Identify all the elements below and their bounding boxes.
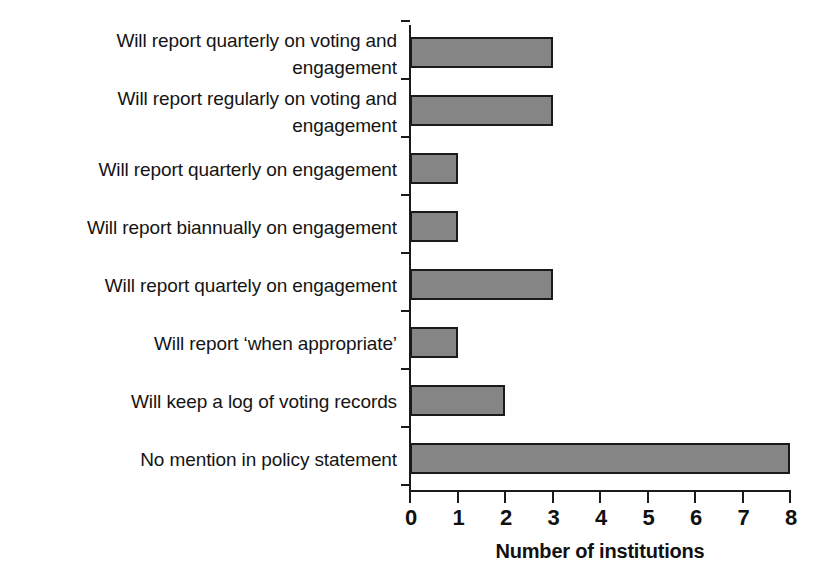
x-axis-tick-label: 5 bbox=[629, 505, 669, 531]
x-axis-tick-label: 3 bbox=[534, 505, 574, 531]
category-label: No mention in policy statement bbox=[0, 446, 405, 473]
x-axis-tick bbox=[647, 492, 649, 503]
bar bbox=[410, 153, 458, 184]
category-label: Will keep a log of voting records bbox=[0, 388, 405, 415]
y-axis-tick bbox=[401, 20, 410, 22]
plot-area bbox=[410, 25, 790, 490]
x-axis-tick bbox=[789, 492, 791, 503]
category-label: Will report biannually on engagement bbox=[0, 214, 405, 241]
category-label: Will report quarterly on voting and enga… bbox=[0, 27, 405, 81]
y-axis-tick bbox=[401, 484, 410, 486]
x-axis-tick-label: 4 bbox=[581, 505, 621, 531]
x-axis-tick-label: 8 bbox=[771, 505, 811, 531]
bar bbox=[410, 95, 553, 126]
x-axis-tick-label: 1 bbox=[439, 505, 479, 531]
y-axis-tick bbox=[401, 252, 410, 254]
category-label: Will report quarterly on engagement bbox=[0, 156, 405, 183]
bar bbox=[410, 37, 553, 68]
category-label: Will report regularly on voting and enga… bbox=[0, 85, 405, 139]
category-label: Will report quartely on engagement bbox=[0, 272, 405, 299]
x-axis-tick bbox=[457, 492, 459, 503]
x-axis-tick bbox=[504, 492, 506, 503]
x-axis-tick bbox=[409, 492, 411, 503]
x-axis-tick bbox=[694, 492, 696, 503]
x-axis-title: Number of institutions bbox=[410, 540, 790, 563]
x-axis-tick bbox=[599, 492, 601, 503]
x-axis-tick-label: 2 bbox=[486, 505, 526, 531]
x-axis-tick bbox=[742, 492, 744, 503]
y-axis-tick bbox=[401, 136, 410, 138]
bar bbox=[410, 269, 553, 300]
x-axis-tick-label: 0 bbox=[391, 505, 431, 531]
category-label: Will report ‘when appropriate’ bbox=[0, 330, 405, 357]
y-axis-tick bbox=[401, 194, 410, 196]
x-axis-tick-label: 7 bbox=[724, 505, 764, 531]
y-axis-tick bbox=[401, 426, 410, 428]
x-axis-tick-label: 6 bbox=[676, 505, 716, 531]
y-axis-tick bbox=[401, 310, 410, 312]
x-axis-tick bbox=[552, 492, 554, 503]
y-axis-tick bbox=[401, 78, 410, 80]
bar bbox=[410, 385, 505, 416]
bar bbox=[410, 327, 458, 358]
y-axis-tick bbox=[401, 368, 410, 370]
bar-chart: Will report quarterly on voting and enga… bbox=[0, 0, 825, 588]
bar bbox=[410, 211, 458, 242]
bar bbox=[410, 443, 790, 474]
